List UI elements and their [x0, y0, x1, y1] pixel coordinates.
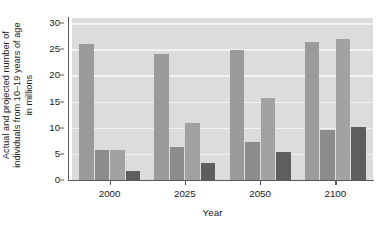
bar-2100-bar-3: [336, 39, 351, 180]
plot-area: [72, 18, 373, 180]
y-tick-mark-10: [60, 127, 64, 128]
bar-2000-bar-1: [79, 44, 94, 180]
y-tick-mark-20: [60, 75, 64, 76]
y-tick-mark-0: [60, 180, 64, 181]
bar-2000-bar-2: [95, 150, 110, 180]
y-tick-label-25: 25: [49, 44, 60, 54]
x-tick-mark-2050: [260, 181, 261, 185]
x-tick-mark-2025: [185, 181, 186, 185]
x-tick-mark-2100: [335, 181, 336, 185]
y-axis-label: Actual and projected number of individua…: [0, 0, 36, 190]
y-tick-label-10: 10: [49, 123, 60, 133]
bar-2025-bar-3: [185, 123, 200, 180]
bar-2050-bar-1: [230, 50, 245, 180]
bar-2025-bar-2: [170, 147, 185, 180]
y-tick-mark-30: [60, 23, 64, 24]
x-axis-label: Year: [0, 207, 385, 218]
y-axis-ticks: 051015202530: [36, 0, 64, 200]
bar-2000-bar-4: [126, 171, 141, 180]
y-tick-mark-15: [60, 101, 64, 102]
x-tick-mark-2000: [110, 181, 111, 185]
y-tick-mark-25: [60, 49, 64, 50]
y-tick-mark-5: [60, 153, 64, 154]
bar-2100-bar-4: [351, 127, 366, 180]
bar-series-container: [72, 18, 373, 180]
x-axis-spine: [68, 180, 374, 181]
bar-2050-bar-4: [276, 152, 291, 180]
x-tick-label-2100: 2100: [324, 188, 346, 200]
y-tick-label-30: 30: [49, 18, 60, 28]
x-axis-label-text: Year: [203, 207, 223, 218]
x-tick-label-2050: 2050: [249, 188, 271, 200]
x-tick-label-2000: 2000: [99, 188, 121, 200]
y-axis-label-line-3: in millions: [24, 22, 35, 167]
y-axis-spine: [68, 17, 69, 181]
y-axis-label-line-2: individuals from 10–19 years of age: [12, 22, 23, 167]
x-tick-label-2025: 2025: [174, 188, 196, 200]
y-axis-label-line-1: Actual and projected number of: [1, 22, 12, 167]
bar-2100-bar-1: [305, 42, 320, 180]
bar-2050-bar-2: [245, 142, 260, 180]
y-tick-label-20: 20: [49, 70, 60, 80]
bar-2000-bar-3: [110, 150, 125, 180]
bar-2050-bar-3: [261, 98, 276, 180]
bar-2025-bar-4: [201, 163, 216, 180]
bar-2100-bar-2: [320, 130, 335, 180]
y-tick-label-15: 15: [49, 97, 60, 107]
bar-2025-bar-1: [154, 54, 169, 180]
bar-chart-figure: Actual and projected number of individua…: [0, 0, 385, 234]
